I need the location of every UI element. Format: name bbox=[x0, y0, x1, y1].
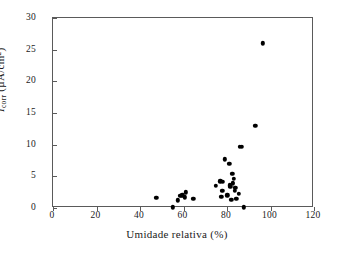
data-point bbox=[233, 186, 237, 190]
x-axis-tick-label: 60 bbox=[178, 210, 188, 220]
y-axis-symbol: I bbox=[0, 108, 6, 112]
data-point bbox=[234, 196, 238, 200]
y-axis-tick bbox=[53, 145, 57, 146]
y-axis-tick bbox=[53, 176, 57, 177]
data-point bbox=[253, 123, 257, 127]
y-axis-tick bbox=[53, 50, 57, 51]
data-point bbox=[170, 205, 174, 209]
data-point bbox=[232, 177, 236, 181]
scatter-chart-figure: 020406080100120051015202530 Umidade rela… bbox=[0, 0, 354, 254]
y-axis-tick-label: 30 bbox=[26, 12, 36, 22]
x-axis-tick-label: 40 bbox=[134, 210, 144, 220]
data-point bbox=[237, 192, 241, 196]
data-point bbox=[240, 144, 244, 148]
y-axis-subscript: corr bbox=[0, 95, 8, 108]
data-point bbox=[261, 41, 265, 45]
data-point bbox=[230, 172, 234, 176]
x-axis-label: Umidade relativa (%) bbox=[0, 228, 354, 240]
data-point bbox=[220, 189, 224, 193]
x-axis-tick-label: 120 bbox=[306, 210, 321, 220]
data-point bbox=[221, 180, 225, 184]
y-axis-units-close: ) bbox=[0, 47, 6, 51]
y-axis-tick bbox=[53, 18, 57, 19]
data-point bbox=[191, 196, 195, 200]
data-point bbox=[182, 195, 186, 199]
y-axis-label: Icorr (µA/cm2) bbox=[0, 47, 8, 112]
y-axis-unit-exponent: 2 bbox=[0, 51, 3, 55]
plot-area bbox=[53, 18, 312, 206]
y-axis-tick-label: 15 bbox=[26, 107, 36, 117]
y-axis-tick-label: 10 bbox=[26, 139, 36, 149]
x-axis-tick-label: 0 bbox=[50, 210, 55, 220]
data-point bbox=[183, 190, 187, 194]
data-point bbox=[223, 157, 227, 161]
data-point bbox=[213, 184, 217, 188]
x-axis-tick-label: 20 bbox=[91, 210, 101, 220]
y-axis-tick bbox=[53, 81, 57, 82]
data-point bbox=[227, 161, 231, 165]
data-point bbox=[225, 193, 229, 197]
y-axis-tick-label: 0 bbox=[31, 202, 36, 212]
data-point bbox=[176, 198, 180, 202]
y-axis-tick-label: 5 bbox=[31, 170, 36, 180]
plot-frame bbox=[52, 17, 313, 207]
data-point bbox=[219, 194, 223, 198]
data-point bbox=[229, 198, 233, 202]
x-axis-tick-label: 100 bbox=[262, 210, 277, 220]
data-point bbox=[242, 205, 246, 209]
y-axis-tick bbox=[53, 113, 57, 114]
y-axis-tick-label: 25 bbox=[26, 44, 36, 54]
y-axis-tick bbox=[53, 208, 57, 209]
x-axis-tick-label: 80 bbox=[221, 210, 231, 220]
y-axis-units: (µA/cm bbox=[0, 55, 6, 94]
y-axis-tick-label: 20 bbox=[26, 75, 36, 85]
data-point bbox=[154, 196, 158, 200]
